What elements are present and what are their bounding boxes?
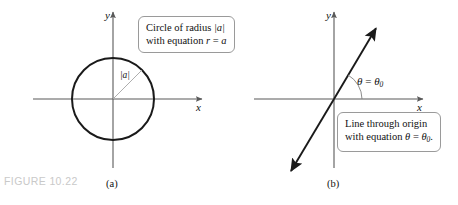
panel-b-callout-line-2: with equation θ = θ0.: [345, 130, 433, 146]
panel-a-callout-line1-math: |a|: [214, 22, 225, 33]
figure-container: y x |a| Circle of radius |a| with equati…: [0, 0, 458, 205]
panel-a-x-axis-label: x: [196, 101, 201, 113]
panel-a-callout: Circle of radius |a| with equation r = a: [138, 16, 235, 53]
panel-b-line-lower-ray: [291, 99, 334, 171]
panel-a-callout-line1-prefix: Circle of radius: [146, 22, 214, 33]
figure-caption: FIGURE 10.22: [4, 175, 78, 187]
panel-b-angle-label: θ = θ0: [357, 75, 383, 89]
panel-b-callout-line-1: Line through origin: [345, 117, 433, 130]
panel-a-radius-label: |a|: [120, 70, 130, 80]
panel-b-callout-line2-equals: =: [410, 131, 421, 142]
panel-a-callout-line2-prefix: with equation: [146, 35, 206, 46]
panel-a-callout-line2-value: a: [221, 35, 226, 46]
panel-a-callout-line2-equals: =: [210, 35, 221, 46]
panel-a-label: (a): [106, 178, 118, 189]
panel-b-label: (b): [327, 178, 339, 189]
panel-a-callout-line-2: with equation r = a: [146, 34, 227, 47]
panel-b-angle-subscript: 0: [380, 80, 384, 89]
panel-a-y-axis-label: y: [105, 9, 110, 21]
panel-b-y-axis-label: y: [326, 9, 331, 21]
panel-b-callout-line2-period: .: [430, 131, 433, 142]
panel-b-callout: Line through origin with equation θ = θ0…: [337, 112, 441, 152]
panel-b-callout-line2-prefix: with equation: [345, 131, 405, 142]
panel-b-angle-equals: =: [362, 75, 374, 87]
panel-a-callout-line-1: Circle of radius |a|: [146, 21, 227, 34]
